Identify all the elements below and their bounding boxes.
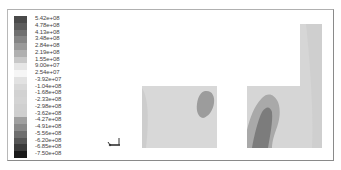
left-contour-region xyxy=(142,86,217,148)
contour-plot xyxy=(0,0,341,170)
right-contour-region xyxy=(247,24,322,148)
axis-triad-icon xyxy=(108,138,120,146)
